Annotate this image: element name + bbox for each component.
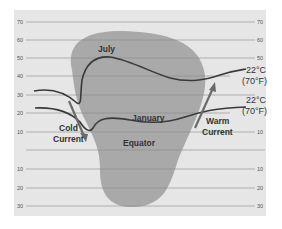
tick-left-60: 60 (17, 37, 23, 43)
isotherm-diagram: 70 60 50 40 30 20 10 10 20 30 70 60 50 1… (0, 0, 282, 229)
tick-left-40: 40 (17, 73, 23, 79)
tick-right-10s: 10 (257, 166, 263, 172)
equator-label: Equator (123, 138, 156, 148)
tick-left-20: 20 (17, 110, 23, 116)
tick-right-60: 60 (257, 37, 263, 43)
tick-left-10s: 10 (17, 166, 23, 172)
tick-right-70: 70 (257, 19, 263, 25)
january-label: January (132, 113, 165, 123)
tick-left-70: 70 (17, 19, 23, 25)
tick-left-30s: 30 (17, 203, 23, 209)
tick-left-20s: 20 (17, 185, 23, 191)
cold-current-label-line2: Current (53, 134, 84, 144)
tick-right-50: 50 (257, 55, 263, 61)
tick-right-20s: 20 (257, 185, 263, 191)
tick-right-30s: 30 (257, 203, 263, 209)
july-label: July (98, 44, 115, 54)
tick-right-10n: 10 (257, 129, 263, 135)
tick-left-30: 30 (17, 92, 23, 98)
january-end-label-celsius: 22°C (246, 95, 267, 105)
cold-current-label-line1: Cold (59, 123, 78, 133)
july-end-label-fahrenheit: (70°F) (242, 76, 267, 86)
warm-current-label-line1: Warm (206, 116, 230, 126)
tick-left-50: 50 (17, 55, 23, 61)
tick-left-10n: 10 (17, 129, 23, 135)
january-end-label-fahrenheit: (70°F) (242, 106, 267, 116)
july-end-label-celsius: 22°C (246, 65, 267, 75)
warm-current-label-line2: Current (202, 127, 233, 137)
